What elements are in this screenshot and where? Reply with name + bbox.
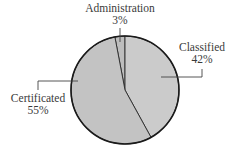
label-administration-pct: 3% <box>112 14 128 26</box>
pie-chart: Administration 3% Classified 42% Certifi… <box>0 0 238 154</box>
label-certificated-pct: 55% <box>27 104 49 116</box>
label-administration-name: Administration <box>85 2 155 14</box>
label-certificated-name: Certificated <box>11 92 66 104</box>
label-classified-name: Classified <box>179 41 225 53</box>
label-classified-pct: 42% <box>191 53 213 65</box>
